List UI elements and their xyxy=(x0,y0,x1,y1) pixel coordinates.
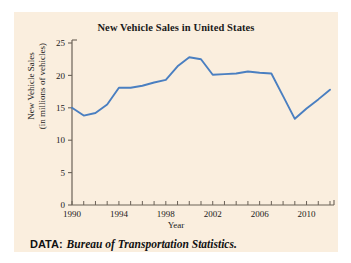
line-chart-plot: 0510152025 199019941998200220062010 xyxy=(14,12,338,227)
svg-text:1990: 1990 xyxy=(63,209,82,219)
chart-axes xyxy=(68,40,334,205)
svg-text:5: 5 xyxy=(61,168,66,178)
svg-text:20: 20 xyxy=(56,71,66,81)
svg-text:15: 15 xyxy=(56,103,66,113)
svg-text:2002: 2002 xyxy=(204,209,222,219)
svg-text:1994: 1994 xyxy=(110,209,129,219)
x-axis-title: Year xyxy=(14,220,338,230)
svg-text:10: 10 xyxy=(56,135,66,145)
y-tick-labels: 0510152025 xyxy=(56,38,66,210)
svg-text:25: 25 xyxy=(56,38,66,48)
data-line-series-new-vehicle-sales xyxy=(72,57,330,119)
figure-panel: New Vehicle Sales in United States New V… xyxy=(14,12,338,252)
data-source-text: Bureau of Transportation Statistics. xyxy=(67,238,237,250)
figure-inner: New Vehicle Sales in United States New V… xyxy=(14,12,338,252)
x-tick-labels: 199019941998200220062010 xyxy=(63,209,316,219)
svg-text:2006: 2006 xyxy=(251,209,270,219)
svg-text:1998: 1998 xyxy=(157,209,176,219)
data-source-label: DATA: xyxy=(30,238,63,250)
svg-text:2010: 2010 xyxy=(298,209,317,219)
data-source-caption: DATA: Bureau of Transportation Statistic… xyxy=(30,234,237,252)
